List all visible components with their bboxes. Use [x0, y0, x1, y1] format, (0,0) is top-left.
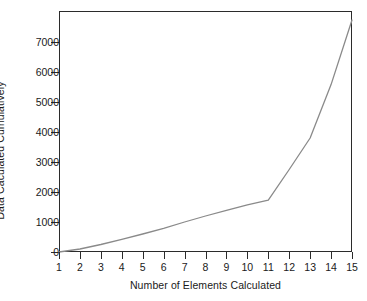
x-axis-title: Number of Elements Calculated — [59, 279, 352, 291]
x-tick-label: 15 — [340, 262, 364, 273]
x-tick-mark — [226, 252, 227, 259]
x-tick-mark — [143, 252, 144, 259]
x-tick-mark — [80, 252, 81, 259]
x-tick-mark — [59, 252, 60, 259]
x-tick-mark — [268, 252, 269, 259]
x-tick-mark — [164, 252, 165, 259]
x-tick-mark — [122, 252, 123, 259]
x-axis-ticks: 123456789101112131415 — [0, 0, 367, 301]
x-tick-mark — [185, 252, 186, 259]
x-tick-mark — [206, 252, 207, 259]
x-tick-mark — [352, 252, 353, 259]
x-tick-mark — [331, 252, 332, 259]
x-tick-mark — [247, 252, 248, 259]
x-tick-mark — [289, 252, 290, 259]
x-tick-mark — [101, 252, 102, 259]
x-tick-mark — [310, 252, 311, 259]
line-chart: Data Caculated Cumulatively 010002000300… — [0, 0, 367, 301]
